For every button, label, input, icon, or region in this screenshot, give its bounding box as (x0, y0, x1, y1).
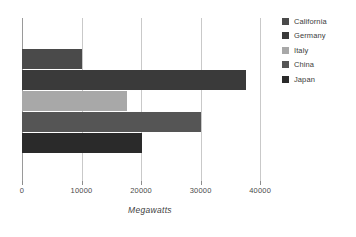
x-tick-label: 10000 (71, 186, 93, 195)
tick-mark (141, 181, 142, 185)
legend-swatch-icon (282, 18, 289, 25)
legend-item-germany[interactable]: Germany (282, 29, 354, 44)
x-axis-title: Megawatts (22, 205, 278, 215)
legend-swatch-icon (282, 61, 289, 68)
x-tick-label: 0 (20, 186, 24, 195)
bar-row (22, 112, 278, 132)
bar-row (22, 91, 278, 111)
bar-japan (22, 133, 142, 153)
bar-italy (22, 91, 127, 111)
bar-california (22, 49, 82, 69)
bar-germany (22, 70, 246, 90)
legend-item-label: China (294, 60, 314, 69)
bar-china (22, 112, 201, 132)
legend-swatch-icon (282, 76, 289, 83)
legend-item-japan[interactable]: Japan (282, 72, 354, 87)
legend-swatch-icon (282, 32, 289, 39)
x-axis: 010000200003000040000 (22, 181, 278, 203)
bar-row (22, 70, 278, 90)
tick-mark (82, 181, 83, 185)
legend-item-china[interactable]: China (282, 58, 354, 73)
bars-layer (22, 18, 278, 181)
legend-item-california[interactable]: California (282, 14, 354, 29)
plot-area (22, 18, 278, 181)
tick-mark (201, 181, 202, 185)
x-tick-label: 20000 (130, 186, 152, 195)
tick-mark (22, 181, 23, 185)
bar-row (22, 49, 278, 69)
legend-item-italy[interactable]: Italy (282, 43, 354, 58)
bar-chart: 010000200003000040000 Megawatts Californ… (0, 0, 356, 237)
bar-row (22, 133, 278, 153)
legend-swatch-icon (282, 47, 289, 54)
legend-item-label: Japan (294, 75, 315, 84)
x-tick-label: 40000 (249, 186, 271, 195)
x-tick-label: 30000 (190, 186, 212, 195)
legend-item-label: Germany (294, 31, 326, 40)
tick-mark (260, 181, 261, 185)
legend: CaliforniaGermanyItalyChinaJapan (282, 14, 354, 87)
legend-item-label: California (294, 17, 327, 26)
legend-item-label: Italy (294, 46, 308, 55)
